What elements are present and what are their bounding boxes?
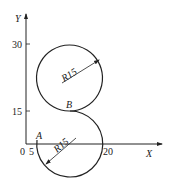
y-tick-label-15: 15 [12, 106, 22, 117]
x-tick-label-5: 5 [29, 146, 34, 157]
y-axis-label: Y [15, 13, 22, 24]
y-tick-label-30: 30 [12, 39, 22, 50]
x-tick-label-20: 20 [103, 146, 113, 157]
point-b-label: B [66, 99, 72, 110]
x-axis-label: X [145, 148, 153, 159]
origin-label: 0 [20, 146, 25, 157]
point-a-label: A [35, 130, 43, 141]
lower-radius-label: R15 [50, 136, 70, 155]
coordinate-diagram: Y X 30 15 0 5 20 A B R15 R15 [0, 0, 173, 190]
upper-radius-label: R15 [58, 66, 78, 84]
